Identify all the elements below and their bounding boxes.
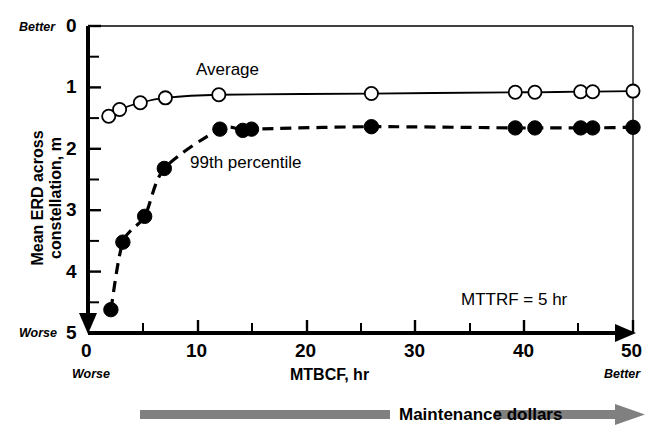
- data-point: [626, 120, 640, 134]
- x-axis-title: MTBCF, hr: [290, 366, 369, 384]
- series-average: [102, 84, 639, 122]
- maintenance-arrow-head: [615, 404, 645, 425]
- y-axis-better-label: Better: [19, 20, 55, 34]
- annotation-mttrf: MTTRF = 5 hr: [461, 290, 567, 310]
- x-axis-better-label: Better: [604, 367, 640, 381]
- series-percentile: [104, 120, 641, 317]
- y-axis-worse-label: Worse: [19, 326, 57, 340]
- data-point: [365, 87, 378, 100]
- maintenance-dollars-label: Maintenance dollars: [399, 405, 562, 425]
- data-point: [244, 122, 258, 136]
- data-point: [364, 120, 378, 134]
- data-point: [213, 122, 227, 136]
- data-point: [528, 121, 542, 135]
- xtick-label-30: 30: [404, 340, 425, 362]
- x-axis: [88, 320, 636, 342]
- data-point: [508, 121, 522, 135]
- xtick-label-40: 40: [513, 340, 534, 362]
- data-point: [586, 85, 599, 98]
- ytick-label-3: 3: [66, 199, 77, 221]
- y-axis: [79, 26, 101, 334]
- ytick-label-2: 2: [66, 138, 77, 160]
- xtick-label-50: 50: [621, 340, 642, 362]
- xtick-label-0: 0: [81, 340, 92, 362]
- data-point: [212, 88, 225, 101]
- data-point: [626, 84, 639, 97]
- maintenance-arrow-svg: [0, 396, 666, 436]
- xtick-label-20: 20: [295, 340, 316, 362]
- ytick-label-4: 4: [66, 261, 77, 283]
- ytick-label-0: 0: [66, 15, 77, 37]
- data-point: [157, 161, 171, 175]
- data-point: [159, 91, 172, 104]
- data-point: [509, 86, 522, 99]
- y-axis-title: Mean ERD across constellation, m: [29, 83, 65, 313]
- data-series-layer: [102, 84, 640, 316]
- data-point: [134, 96, 147, 109]
- maintenance-arrow-left-bar: [140, 410, 390, 419]
- data-point: [116, 235, 130, 249]
- series-label-average: Average: [196, 60, 259, 80]
- series-label-percentile: 99th percentile: [190, 153, 302, 173]
- data-point: [528, 86, 541, 99]
- chart-figure: 0 1 2 3 4 5 0 10 20 30 40 50 Better Wors…: [0, 0, 666, 439]
- x-axis-worse-label: Worse: [72, 367, 110, 381]
- ytick-label-5: 5: [66, 322, 77, 344]
- ytick-label-1: 1: [66, 76, 77, 98]
- data-point: [137, 209, 151, 223]
- data-point: [585, 121, 599, 135]
- plot-frame: [88, 26, 633, 333]
- data-point: [113, 103, 126, 116]
- data-point: [104, 302, 118, 316]
- xtick-label-10: 10: [186, 340, 207, 362]
